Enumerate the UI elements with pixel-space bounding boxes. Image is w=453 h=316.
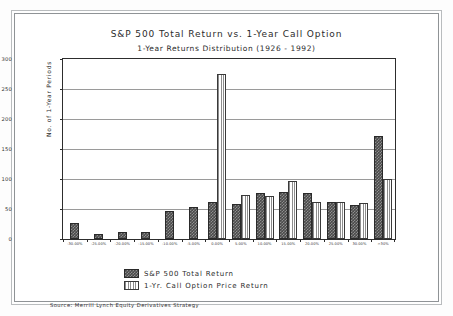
bar-sp500 [94,234,103,239]
x-tick-label: -25.00% [91,242,106,246]
bar-group [348,59,372,239]
bar-group [110,59,134,239]
x-tick-label: -5.00% [187,242,200,246]
y-axis-label: No. of 1-Year Periods [45,61,52,137]
x-tick-label: -20.00% [115,242,130,246]
bar-call-option [312,202,321,239]
bar-sp500 [279,192,288,239]
chart-figure: S&P 500 Total Return vs. 1-Year Call Opt… [16,15,437,300]
bar-call-option [288,181,297,239]
y-tick-label: 200 [0,116,12,122]
chart-subtitle: 1-Year Returns Distribution (1926 - 1992… [16,44,437,53]
x-tick-mark [63,239,64,242]
bar-group [158,59,182,239]
bar-call-option [265,196,274,239]
bar-sp500 [141,232,150,239]
x-tick-mark [134,239,135,242]
screenshot-page: S&P 500 Total Return vs. 1-Year Call Opt… [0,0,453,316]
x-tick-mark [348,239,349,242]
bar-call-option [383,179,392,239]
bar-sp500 [165,211,174,239]
bar-group [324,59,348,239]
legend-label-sp500: S&P 500 Total Return [144,270,234,278]
legend-item-sp500: S&P 500 Total Return [124,269,269,278]
x-tick-mark [300,239,301,242]
bar-call-option [336,202,345,239]
chart-legend: S&P 500 Total Return 1-Yr. Call Option P… [124,269,269,293]
x-tick-mark [229,239,230,242]
y-tick-label: 100 [0,176,12,182]
dark-checkered-swatch [124,269,139,278]
bar-sp500 [374,136,383,239]
x-tick-mark [205,239,206,242]
y-tick-label: 250 [0,86,12,92]
bar-sp500 [118,232,127,239]
bar-sp500 [256,193,265,239]
bar-call-option [359,203,368,239]
y-tick-label: 50 [0,206,12,212]
bar-sp500 [208,202,217,239]
bar-sp500 [232,204,241,239]
x-tick-mark [87,239,88,242]
x-tick-label: >30% [378,242,389,246]
plot-area: No. of 1-Year Periods 050100150200250300… [62,58,396,240]
x-tick-mark [110,239,111,242]
bar-group [276,59,300,239]
bar-sp500 [350,205,359,239]
bar-group [371,59,395,239]
y-tick-label: 0 [0,236,12,242]
light-striped-swatch [124,281,139,290]
bar-sp500 [70,223,79,239]
x-tick-mark [394,239,395,242]
x-tick-label: 15.00% [281,242,295,246]
bar-sp500 [327,202,336,239]
bar-group [134,59,158,239]
x-tick-label: -30.00% [67,242,82,246]
bar-group [229,59,253,239]
x-tick-label: 0.00% [211,242,223,246]
bar-call-option [217,74,226,239]
bar-sp500 [189,207,198,239]
bar-group [253,59,277,239]
x-tick-mark [158,239,159,242]
bar-group [300,59,324,239]
x-tick-label: 5.00% [235,242,247,246]
x-tick-label: 30.00% [352,242,366,246]
x-tick-mark [253,239,254,242]
bar-sp500 [303,193,312,239]
chart-title: S&P 500 Total Return vs. 1-Year Call Opt… [16,29,437,39]
x-tick-mark [182,239,183,242]
bar-group [205,59,229,239]
x-tick-mark [371,239,372,242]
legend-item-call-option: 1-Yr. Call Option Price Return [124,281,269,290]
x-tick-label: 20.00% [305,242,319,246]
source-note: Source: Merrill Lynch Equity Derivatives… [50,302,199,308]
x-tick-label: -10.00% [162,242,177,246]
bar-group [182,59,206,239]
x-tick-mark [324,239,325,242]
legend-label-call-option: 1-Yr. Call Option Price Return [144,282,269,290]
bar-series-container [63,59,395,239]
y-tick-label: 300 [0,56,12,62]
x-tick-label: -15.00% [138,242,153,246]
bar-group [87,59,111,239]
x-tick-label: 10.00% [258,242,272,246]
x-tick-label: 25.00% [329,242,343,246]
bar-group [63,59,87,239]
y-tick-label: 150 [0,146,12,152]
bar-call-option [241,195,250,239]
x-tick-mark [276,239,277,242]
